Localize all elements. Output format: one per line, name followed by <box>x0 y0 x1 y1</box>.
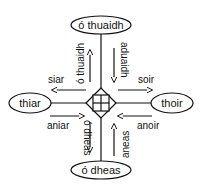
label-from-east: anoir <box>137 120 160 131</box>
node-north: ó thuaidh <box>71 16 131 34</box>
compass-diagram: ó thuaidh ó dheas thiar thoir ó thuaidh … <box>0 0 206 192</box>
node-north-label: ó thuaidh <box>78 19 123 31</box>
node-west-label: thiar <box>19 97 41 109</box>
label-to-south: ó dheas <box>82 120 93 156</box>
label-to-east: soir <box>138 74 155 85</box>
node-east-label: thoir <box>161 97 183 109</box>
node-south-label: ó dheas <box>81 164 121 176</box>
label-from-west: aniar <box>47 120 70 131</box>
node-south: ó dheas <box>71 161 131 179</box>
node-west: thiar <box>9 93 51 113</box>
label-to-west: siar <box>48 74 65 85</box>
center-grid-icon <box>86 88 116 118</box>
label-from-north: aduaidh <box>119 42 130 78</box>
node-east: thoir <box>151 93 193 113</box>
label-from-south: aneas <box>120 131 131 158</box>
label-to-north: ó thuaidh <box>75 43 86 84</box>
